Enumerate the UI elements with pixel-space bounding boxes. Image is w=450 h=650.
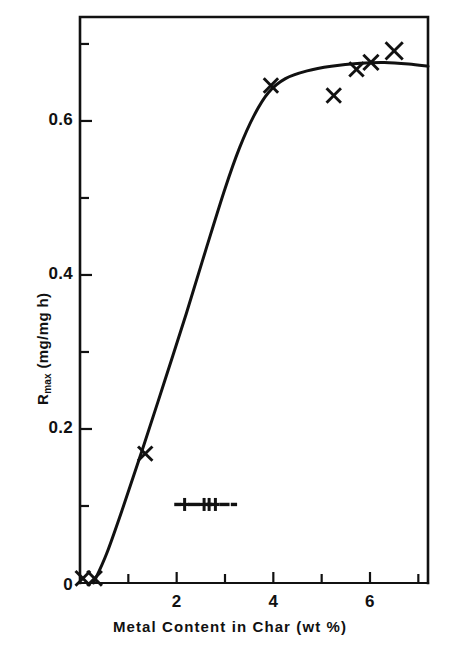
x-tick-label: 4 — [259, 592, 287, 612]
y-axis-ticks — [80, 44, 92, 506]
x-axis-ticks — [128, 572, 418, 583]
figure-container: 246 00.20.40.6 Rmax (mg/mg h) Metal Cont… — [0, 0, 450, 650]
y-axis-title-subscript: max — [42, 373, 53, 394]
x-tick-label: 6 — [356, 592, 384, 612]
legend-sample-line — [174, 498, 237, 511]
x-axis-title: Metal Content in Char (wt %) — [60, 618, 400, 635]
frame-border — [80, 17, 428, 583]
y-tick-label: 0.6 — [33, 110, 73, 130]
data-point-marker — [386, 42, 403, 59]
y-tick-label: 0.2 — [33, 418, 73, 438]
y-axis-title-unit: (mg/mg h) — [34, 292, 51, 373]
y-axis-title: Rmax (mg/mg h) — [34, 292, 51, 405]
x-tick-label: 2 — [163, 592, 191, 612]
chart-canvas — [0, 0, 450, 650]
fitted-curve — [94, 62, 428, 583]
y-tick-label: 0.4 — [33, 264, 73, 284]
data-point-marker — [327, 88, 341, 102]
axis-frame — [80, 17, 428, 583]
y-axis-title-base: R — [34, 394, 51, 405]
y-tick-label: 0 — [33, 575, 73, 595]
curve-path — [94, 62, 428, 583]
